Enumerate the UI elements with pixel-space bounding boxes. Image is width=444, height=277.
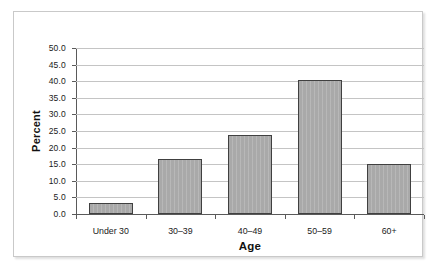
gridline: [76, 48, 424, 49]
x-axis-tick: [215, 215, 216, 219]
x-axis-category-label: 50–59: [307, 226, 331, 236]
bar-40-49: [228, 135, 272, 214]
y-axis-tick: 45.0: [72, 65, 76, 66]
chart-figure: 0.05.010.015.020.025.030.035.040.045.050…: [0, 0, 444, 277]
y-axis-tick-label: 10.0: [49, 176, 66, 186]
gridline: [76, 114, 424, 115]
y-axis-tick: 30.0: [72, 114, 76, 115]
y-axis-tick: 50.0: [72, 48, 76, 49]
gridline: [76, 65, 424, 66]
bar-30-39: [158, 159, 202, 214]
y-axis-tick: 35.0: [72, 98, 76, 99]
y-axis-tick: 25.0: [72, 131, 76, 132]
y-axis-tick-label: 0.0: [54, 209, 66, 219]
bar-60: [367, 164, 411, 214]
gridline: [76, 131, 424, 132]
y-axis-tick-label: 25.0: [49, 126, 66, 136]
y-axis-tick-label: 45.0: [49, 60, 66, 70]
y-axis-tick: 5.0: [72, 197, 76, 198]
bar-50-59: [298, 80, 342, 214]
x-axis-tick: [146, 215, 147, 219]
y-axis-tick: 15.0: [72, 164, 76, 165]
plot-area: 0.05.010.015.020.025.030.035.040.045.050…: [76, 48, 424, 214]
y-axis-tick-label: 35.0: [49, 93, 66, 103]
x-axis-category-label: 60+: [382, 226, 397, 236]
chart-frame: 0.05.010.015.020.025.030.035.040.045.050…: [13, 11, 423, 257]
x-axis-category-label: Under 30: [93, 226, 129, 236]
y-axis-tick: 40.0: [72, 81, 76, 82]
gridline: [76, 214, 424, 215]
x-axis-tick: [424, 215, 425, 219]
y-axis-tick: 20.0: [72, 148, 76, 149]
x-axis-category-label: 30–39: [168, 226, 192, 236]
y-axis-tick-label: 15.0: [49, 159, 66, 169]
x-axis-tick: [285, 215, 286, 219]
y-axis-tick-label: 50.0: [49, 43, 66, 53]
gridline: [76, 81, 424, 82]
y-axis-title: Percent: [30, 48, 44, 214]
x-axis-category-label: 40–49: [238, 226, 262, 236]
x-axis-tick: [354, 215, 355, 219]
gridline: [76, 98, 424, 99]
y-axis-tick-label: 20.0: [49, 143, 66, 153]
bar-under-30: [89, 203, 133, 214]
x-axis-tick: [76, 215, 77, 219]
y-axis-tick-label: 30.0: [49, 109, 66, 119]
y-axis-tick-label: 5.0: [54, 192, 66, 202]
x-axis-title: Age: [76, 240, 424, 252]
y-axis-tick-label: 40.0: [49, 76, 66, 86]
y-axis-tick: 10.0: [72, 181, 76, 182]
